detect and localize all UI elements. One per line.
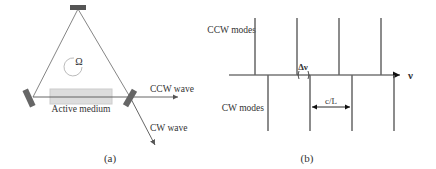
ring-laser-diagram: Ω Active medium CCW wave CW wave (a)	[22, 5, 193, 165]
left-mirror	[22, 89, 35, 108]
mode-spectrum-diagram: CCW modes CW modes ν Δν c/L (b)	[207, 18, 413, 165]
ccw-wave-label: CCW wave	[150, 84, 194, 94]
cw-wave-label: CW wave	[150, 123, 188, 133]
caption-b: (b)	[301, 152, 314, 165]
ccw-modes-label: CCW modes	[207, 25, 256, 35]
delta-nu-label: Δν	[298, 62, 308, 72]
active-medium	[50, 89, 112, 104]
cw-modes-label: CW modes	[222, 103, 265, 113]
omega-symbol: Ω	[75, 56, 82, 67]
caption-a: (a)	[104, 152, 117, 165]
right-mirror	[123, 89, 137, 108]
ccw-mode-lines	[255, 18, 381, 75]
spacing-label: c/L	[325, 96, 337, 106]
active-medium-label: Active medium	[52, 104, 111, 114]
nu-axis-label: ν	[407, 69, 413, 81]
top-mirror	[70, 5, 86, 10]
figure: Ω Active medium CCW wave CW wave (a) CCW…	[0, 0, 436, 169]
